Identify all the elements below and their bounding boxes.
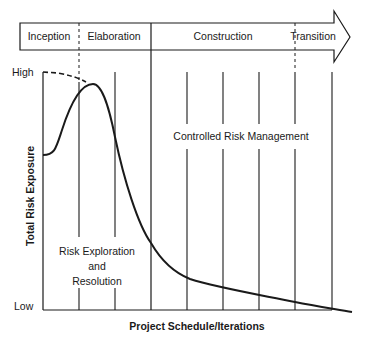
- x-axis-title: Project Schedule/Iterations: [129, 321, 264, 332]
- region-exploration-line-2: and: [59, 259, 135, 274]
- region-risk-exploration: Risk Exploration and Resolution: [59, 244, 135, 289]
- y-axis-high-label: High: [12, 67, 34, 78]
- phase-elaboration: Elaboration: [87, 31, 140, 42]
- risk-curve-dashed: [43, 72, 86, 82]
- phase-construction: Construction: [194, 31, 253, 42]
- phase-transition: Transition: [290, 31, 336, 42]
- y-axis-low-label: Low: [14, 301, 33, 312]
- region-exploration-line-3: Resolution: [59, 274, 135, 289]
- y-axis-title: Total Risk Exposure: [24, 146, 36, 246]
- region-exploration-line-1: Risk Exploration: [59, 244, 135, 259]
- phase-inception: Inception: [28, 31, 71, 42]
- risk-diagram: [0, 0, 365, 345]
- region-controlled-risk: Controlled Risk Management: [173, 131, 308, 142]
